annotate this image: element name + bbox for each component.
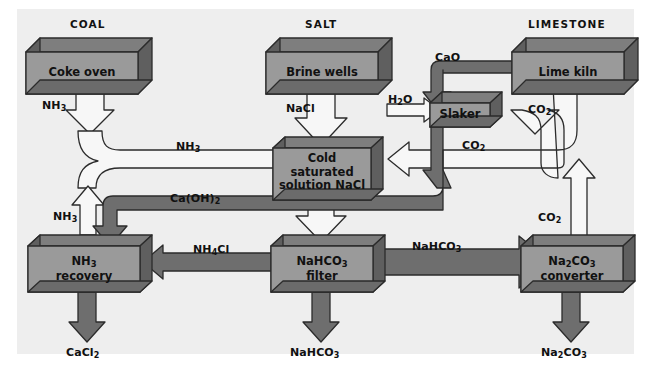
stream-co2-converter-riser [563, 159, 595, 236]
stream-label-cao-to-slaker: CaO [435, 52, 460, 64]
output-label-nahco3: NaHCO3 [290, 347, 339, 360]
header-coal: COAL [70, 19, 106, 31]
stream-label-nahco3-to-converter: NaHCO3 [412, 241, 461, 254]
unit-label-na2co3-converter: Na2CO3converter [521, 255, 623, 283]
stream-label-nacl-from-brine: NaCl [286, 103, 315, 115]
unit-label-nahco3-filter: NaHCO3filter [271, 255, 373, 283]
stream-label-nh3-recycle: NH3 [53, 211, 77, 224]
header-salt: SALT [305, 19, 337, 31]
stream-label-co2-to-solution: CO2 [462, 140, 485, 153]
stream-label-caoh2-to-recovery: Ca(OH)2 [170, 193, 220, 206]
stream-label-nh3-from-coke-oven: NH3 [42, 100, 66, 113]
stream-cacl2-output [69, 292, 105, 342]
stream-label-co2-from-lime-kiln: CO2 [528, 104, 551, 117]
stream-label-h2o-to-slaker: H2O [388, 94, 412, 107]
unit-label-lime-kiln: Lime kiln [512, 66, 624, 80]
unit-label-slaker: Slaker [430, 108, 490, 122]
unit-label-brine-wells: Brine wells [266, 66, 378, 80]
output-label-cacl2: CaCl2 [66, 347, 99, 360]
stream-label-co2-from-converter: CO2 [538, 212, 561, 225]
stream-na2co3-output [553, 292, 589, 342]
header-limestone: LIMESTONE [528, 19, 606, 31]
unit-label-nh3-recovery: NH3recovery [28, 255, 140, 283]
output-label-na2co3: Na2CO3 [541, 347, 587, 360]
unit-label-cold-saturated: Coldsaturatedsolution NaCl [273, 152, 371, 193]
stream-label-nh4cl-to-recovery: NH4Cl [193, 244, 229, 257]
unit-label-coke-oven: Coke oven [26, 66, 138, 80]
diagram-canvas: COAL SALT LIMESTONE Coke oven Brine well… [0, 0, 651, 368]
stream-nahco3-output [303, 292, 339, 342]
stream-label-nh3-to-solution: NH3 [176, 141, 200, 154]
